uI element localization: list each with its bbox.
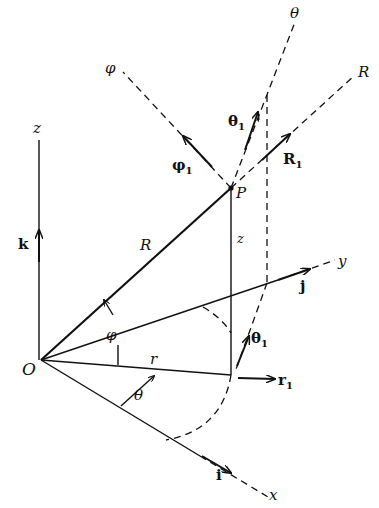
r1-label: r1 bbox=[278, 371, 293, 391]
x-axis-label: x bbox=[269, 486, 278, 504]
r-segment-label: r bbox=[150, 350, 158, 368]
theta1-unit-vector bbox=[245, 112, 258, 150]
z-axis-label: z bbox=[32, 119, 41, 137]
theta-arc bbox=[166, 375, 231, 440]
radius-segment bbox=[41, 188, 231, 360]
theta-angle-label: θ bbox=[134, 386, 143, 404]
R-coordinate-line bbox=[231, 75, 355, 188]
phi1-unit-vector bbox=[183, 136, 212, 167]
theta1-lower-unit-vector bbox=[237, 336, 249, 366]
phi1-label: φ1 bbox=[172, 156, 193, 176]
R1-label: R1 bbox=[283, 150, 302, 170]
r-segment bbox=[41, 360, 231, 375]
phi-line-label: φ bbox=[105, 59, 116, 77]
point-P-label: P bbox=[235, 184, 247, 202]
phi-angle-label: φ bbox=[106, 326, 117, 344]
phi-arc bbox=[203, 307, 231, 333]
R-segment-label: R bbox=[139, 236, 151, 254]
origin-label: O bbox=[22, 359, 36, 379]
z-segment-label: z bbox=[236, 231, 244, 246]
k-label: k bbox=[18, 235, 29, 253]
y-axis-label: y bbox=[337, 252, 347, 270]
j-label: j bbox=[298, 277, 305, 295]
r1-unit-vector bbox=[238, 378, 275, 379]
spherical-coordinates-diagram: θ φ R θ1 φ1 R1 P z k R z y j φ θ1 O r r1… bbox=[0, 0, 379, 508]
phi-angle-tick bbox=[104, 300, 113, 315]
theta1-lower-label: θ1 bbox=[251, 329, 268, 349]
theta-line-label: θ bbox=[290, 4, 299, 22]
x-axis bbox=[41, 360, 268, 497]
i-label: i bbox=[216, 466, 222, 484]
point-P-dot bbox=[228, 185, 233, 190]
R-line-label: R bbox=[357, 63, 369, 81]
theta1-label: θ1 bbox=[228, 112, 245, 132]
